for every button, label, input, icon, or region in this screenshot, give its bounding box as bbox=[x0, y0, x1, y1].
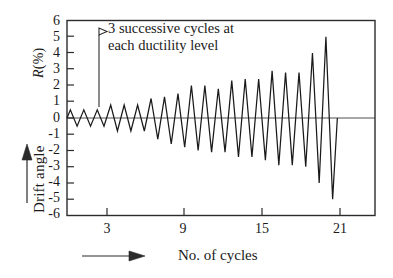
plot-canvas bbox=[0, 0, 393, 278]
x-axis-direction-arrow bbox=[82, 251, 145, 261]
x-axis-ticks bbox=[107, 208, 340, 216]
chart-figure: R(%) Drift angle 6 5 4 3 2 1 0 -1 -2 -3 … bbox=[0, 0, 393, 278]
x-axis-title: No. of cycles bbox=[178, 247, 258, 264]
y-axis-direction-arrow bbox=[22, 144, 32, 203]
annotation-leader bbox=[99, 28, 107, 107]
